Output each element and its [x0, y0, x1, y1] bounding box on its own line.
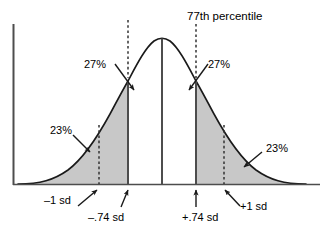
pct-label-right-inner: 27% [208, 58, 230, 70]
arrow-minus-one-sd [78, 190, 97, 206]
left-shaded-area [18, 81, 128, 184]
arrow-23pct-left-leader [73, 135, 90, 152]
sd-label-minus-one: –1 sd [44, 194, 71, 206]
sd-label-minus-point74: –.74 sd [88, 211, 124, 223]
pct-label-left-inner: 27% [84, 58, 106, 70]
pct-label-left-outer: 23% [50, 124, 72, 136]
pct-label-right-outer: 23% [266, 142, 288, 154]
arrow-minus-point74-sd [121, 190, 128, 207]
sd-label-plus-point74: +.74 sd [182, 211, 218, 223]
arrow-plus-one-sd [225, 190, 240, 206]
arrow-23pct-right-leader [244, 152, 262, 167]
percentile-title-label: 77th percentile [187, 10, 262, 22]
right-shaded-area [196, 81, 306, 184]
normal-distribution-figure: 77th percentile 27% 27% 23% 23% –1 sd –.… [0, 0, 332, 236]
sd-label-plus-one: +1 sd [240, 200, 267, 212]
